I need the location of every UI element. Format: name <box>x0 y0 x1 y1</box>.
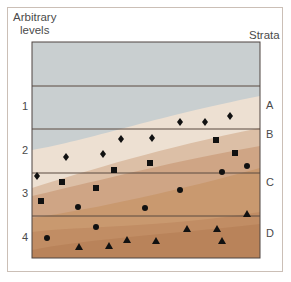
square-marker <box>38 198 44 204</box>
strata-layers <box>32 42 260 258</box>
square-marker <box>232 150 238 156</box>
circle-marker <box>75 204 81 210</box>
square-marker <box>213 137 219 143</box>
square-marker <box>93 185 99 191</box>
circle-marker <box>244 163 250 169</box>
circle-marker <box>93 224 99 230</box>
stratum-label-d: D <box>266 227 274 239</box>
circle-marker <box>142 205 148 211</box>
circle-marker <box>177 187 183 193</box>
circle-marker <box>219 169 225 175</box>
stratum-label-b: B <box>266 128 273 140</box>
level-label-1: 1 <box>20 100 30 112</box>
level-label-3: 3 <box>20 187 30 199</box>
level-label-2: 2 <box>20 144 30 156</box>
stratum-label-c: C <box>266 176 274 188</box>
square-marker <box>147 160 153 166</box>
square-marker <box>111 167 117 173</box>
square-marker <box>59 179 65 185</box>
stratigraphy-diagram <box>0 0 291 282</box>
circle-marker <box>44 235 50 241</box>
level-label-4: 4 <box>20 231 30 243</box>
stratum-label-a: A <box>266 99 273 111</box>
